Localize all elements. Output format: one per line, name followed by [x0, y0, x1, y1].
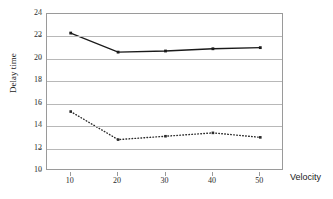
- y-axis-title: Delay time: [8, 42, 18, 104]
- data-point-marker: [69, 110, 72, 113]
- data-point-marker: [212, 132, 215, 135]
- data-point-marker: [259, 46, 262, 49]
- x-axis-tick-label: 40: [200, 176, 224, 186]
- data-point-marker: [69, 32, 72, 35]
- data-point-marker: [164, 135, 167, 138]
- y-axis-tick-group: 2422201816141210: [24, 13, 42, 170]
- y-axis-tick-mark: [38, 13, 42, 14]
- y-axis-tick-mark: [38, 125, 42, 126]
- chart-container: 2422201816141210 Delay time 1020304050 V…: [0, 0, 333, 199]
- gridline: [47, 81, 282, 82]
- x-axis-title: Velocity: [290, 172, 321, 182]
- data-point-marker: [164, 50, 167, 53]
- gridline: [47, 104, 282, 105]
- gridline: [47, 36, 282, 37]
- plot-area: [46, 13, 283, 170]
- y-axis-tick-mark: [38, 103, 42, 104]
- data-point-marker: [117, 51, 120, 54]
- x-axis-tick-label: 30: [153, 176, 177, 186]
- gridline: [47, 149, 282, 150]
- x-axis-tick-group: 1020304050: [46, 172, 283, 186]
- x-axis-tick-label: 20: [105, 176, 129, 186]
- y-axis-tick-mark: [38, 80, 42, 81]
- x-axis-tick-mark: [70, 172, 71, 176]
- x-axis-tick-mark: [212, 172, 213, 176]
- y-axis-tick-mark: [38, 170, 42, 171]
- x-axis-tick-mark: [259, 172, 260, 176]
- data-point-marker: [212, 47, 215, 50]
- y-axis-tick-mark: [38, 58, 42, 59]
- data-point-marker: [117, 138, 120, 141]
- series-layer: [47, 14, 284, 171]
- x-axis-tick-mark: [117, 172, 118, 176]
- x-axis-tick-label: 10: [58, 176, 82, 186]
- x-axis-tick-label: 50: [247, 176, 271, 186]
- gridline: [47, 126, 282, 127]
- gridline: [47, 59, 282, 60]
- y-axis-tick-mark: [38, 35, 42, 36]
- x-axis-tick-mark: [165, 172, 166, 176]
- y-axis-tick-mark: [38, 148, 42, 149]
- data-point-marker: [259, 136, 262, 139]
